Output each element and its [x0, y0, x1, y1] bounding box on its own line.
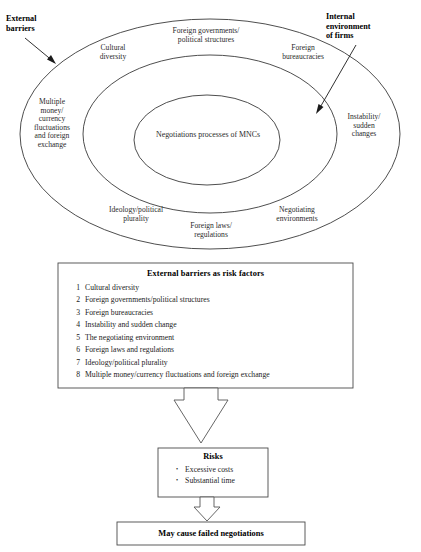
- risk-factors-box: External barriers as risk factors 1Cultu…: [58, 263, 353, 388]
- risk-factor-number: 8: [72, 369, 80, 381]
- ring-label-negotiating-environments: Negotiating environments: [255, 206, 339, 223]
- risk-factor-number: 7: [72, 357, 80, 369]
- risk-factor-item: 2Foreign governments/political structure…: [72, 294, 347, 306]
- risk-factor-text: Instability and sudden change: [85, 319, 177, 331]
- risks-list: •Excessive costs•Substantial time: [158, 464, 268, 487]
- internal-environment-callout-label: Internal environment of firms: [326, 12, 418, 41]
- risk-factors-list: 1Cultural diversity2Foreign governments/…: [58, 282, 353, 382]
- risk-factor-item: 5The negotiating environment: [72, 332, 347, 344]
- ring-label-multiple-money: Multiple money/ currency fluctuations an…: [22, 98, 82, 149]
- outcome-box: May cause failed negotiations: [117, 522, 305, 545]
- risk-factor-number: 3: [72, 307, 80, 319]
- external-barriers-arrow: [25, 38, 56, 64]
- diagram-root: External barriers Internal environment o…: [0, 0, 421, 552]
- ring-label-foreign-governments: Foreign governments/ political structure…: [140, 27, 272, 44]
- block-arrow-to-outcome: [194, 497, 220, 521]
- block-arrow-to-risks: [174, 388, 228, 443]
- bullet-icon: •: [176, 464, 178, 475]
- risk-factor-item: 1Cultural diversity: [72, 282, 347, 294]
- risk-factor-number: 1: [72, 282, 80, 294]
- ring-label-ideology: Ideology/political plurality: [88, 206, 184, 223]
- outcome-text: May cause failed negotiations: [158, 529, 263, 538]
- risk-factor-number: 4: [72, 319, 80, 331]
- risk-factor-item: 3Foreign bureaucracies: [72, 307, 347, 319]
- risk-factor-text: The negotiating environment: [85, 332, 174, 344]
- risk-factor-text: Cultural diversity: [85, 282, 139, 294]
- risk-factor-text: Foreign bureaucracies: [85, 307, 153, 319]
- risks-box: Risks •Excessive costs•Substantial time: [158, 448, 268, 497]
- risks-title: Risks: [158, 452, 268, 461]
- ring-label-foreign-laws: Foreign laws/ regulations: [171, 222, 251, 239]
- risk-factor-number: 6: [72, 344, 80, 356]
- risk-factor-item: 4Instability and sudden change: [72, 319, 347, 331]
- bullet-icon: •: [176, 475, 178, 486]
- risk-item: •Excessive costs: [176, 464, 268, 475]
- risk-factor-text: Foreign laws and regulations: [85, 344, 174, 356]
- risk-factor-item: 8Multiple money/currency fluctuations an…: [72, 369, 347, 381]
- risk-factor-text: Ideology/political plurality: [85, 357, 168, 369]
- core-ellipse-label: Negotiations processes of MNCs: [126, 131, 290, 140]
- risk-item-text: Substantial time: [185, 475, 235, 486]
- risk-item: •Substantial time: [176, 475, 268, 486]
- risk-factor-text: Multiple money/currency fluctuations and…: [85, 369, 270, 381]
- ring-label-cultural-diversity: Cultural diversity: [78, 44, 148, 61]
- ring-label-instability: Instability/ sudden changes: [330, 113, 398, 139]
- risk-factor-item: 7Ideology/political plurality: [72, 357, 347, 369]
- risk-factor-item: 6Foreign laws and regulations: [72, 344, 347, 356]
- risk-factors-title: External barriers as risk factors: [58, 269, 353, 278]
- risk-item-text: Excessive costs: [185, 464, 233, 475]
- ring-label-foreign-bureaucracies: Foreign bureaucracies: [268, 44, 338, 61]
- risk-factor-number: 5: [72, 332, 80, 344]
- external-barriers-callout-label: External barriers: [6, 14, 92, 33]
- risk-factor-text: Foreign governments/political structures: [85, 294, 210, 306]
- risk-factor-number: 2: [72, 294, 80, 306]
- inner-ellipse: [134, 95, 280, 185]
